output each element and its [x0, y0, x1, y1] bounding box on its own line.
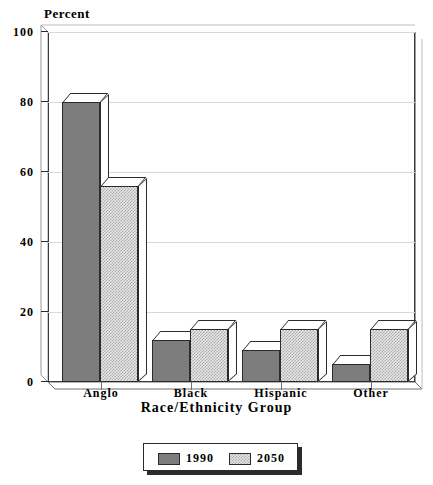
legend-swatch-1990	[158, 453, 180, 465]
x-axis-title: Race/Ethnicity Group	[0, 400, 433, 416]
bar-anglo-2050	[100, 186, 138, 382]
legend-entry-2050: 2050	[229, 451, 285, 466]
bar-front-face	[190, 329, 228, 382]
bar-anglo-1990	[62, 102, 100, 382]
y-tick-label-80: 80	[0, 95, 34, 110]
bar-front-face	[280, 329, 318, 382]
bar-side-face	[138, 178, 147, 382]
legend-entry-1990: 1990	[158, 451, 214, 466]
bar-black-1990	[152, 340, 190, 382]
bar-front-face	[242, 350, 280, 382]
x-tick-label-black: Black	[151, 386, 231, 401]
y-tick-label-20: 20	[0, 305, 34, 320]
bar-other-2050	[370, 329, 408, 382]
legend-label-1990: 1990	[186, 451, 214, 466]
y-tick-mark-20	[41, 311, 48, 312]
x-tick-label-other: Other	[331, 386, 411, 401]
legend-swatch-2050	[229, 453, 251, 465]
legend-label-2050: 2050	[257, 451, 285, 466]
bar-hispanic-2050	[280, 329, 318, 382]
y-tick-mark-0	[41, 381, 48, 382]
y-tick-mark-80	[41, 101, 48, 102]
bar-front-face	[152, 340, 190, 382]
gridline-100	[48, 32, 415, 33]
bar-side-face	[408, 321, 417, 382]
y-tick-mark-40	[41, 241, 48, 242]
y-tick-label-60: 60	[0, 165, 34, 180]
bar-chart: Percent	[0, 0, 433, 485]
y-tick-mark-60	[41, 171, 48, 172]
x-tick-label-hispanic: Hispanic	[241, 386, 321, 401]
bar-other-1990	[332, 364, 370, 382]
y-tick-mark-100	[41, 31, 48, 32]
bar-hispanic-1990	[242, 350, 280, 382]
bar-front-face	[62, 102, 100, 382]
bar-side-face	[228, 321, 237, 382]
x-tick-label-anglo: Anglo	[61, 386, 141, 401]
y-tick-label-40: 40	[0, 235, 34, 250]
bar-front-face	[100, 186, 138, 382]
plot-area	[48, 32, 415, 382]
bar-front-face	[370, 329, 408, 382]
y-tick-label-100: 100	[0, 25, 34, 40]
bar-side-face	[318, 321, 327, 382]
chart-legend: 1990 2050	[143, 443, 298, 471]
bar-black-2050	[190, 329, 228, 382]
y-tick-label-0: 0	[0, 375, 34, 390]
bar-front-face	[332, 364, 370, 382]
